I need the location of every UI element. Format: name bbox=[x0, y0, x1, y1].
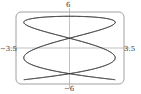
x-min-tick-label: −3.5 bbox=[0, 46, 17, 53]
x-max-tick-label: 3.5 bbox=[124, 46, 135, 53]
lissajous-plot bbox=[0, 0, 141, 94]
y-min-tick-label: −6 bbox=[64, 86, 74, 93]
y-max-tick-label: 6 bbox=[66, 2, 70, 9]
